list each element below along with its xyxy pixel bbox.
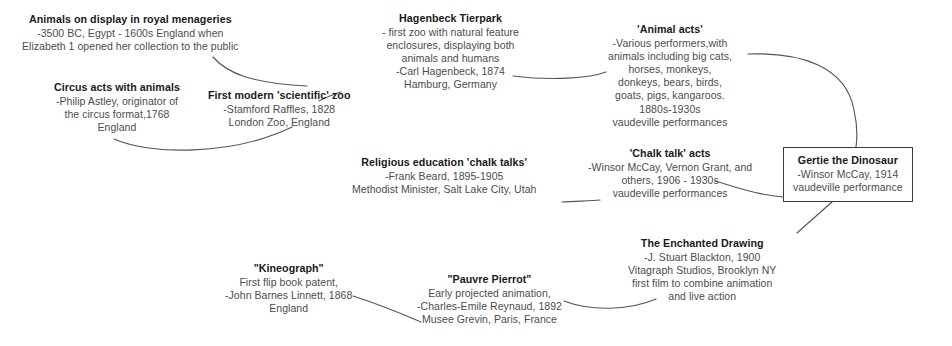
node-line: Methodist Minister, Salt Lake City, Utah [352,183,536,196]
connector-animal-acts-to-gertie [748,54,857,147]
node-line: 1880s-1930s [608,103,732,116]
node-line: -Winsor McCay, 1914 [793,168,903,181]
node-line: goats, pigs, kangaroos. [608,89,732,102]
node-line: donkeys, bears, birds, [608,76,732,89]
node-title: First modern 'scientific' zoo [208,88,351,103]
node-line: vaudeville performances [588,187,752,200]
node-line: vaudeville performance [793,181,903,194]
connector-menageries-to-zoo [213,57,307,86]
node-title: 'Animal acts' [608,22,732,37]
node-enchanted-drawing: The Enchanted Drawing -J. Stuart Blackto… [628,236,776,303]
node-line: enclosures, displaying both [382,39,519,52]
node-gertie-the-dinosaur: Gertie the Dinosaur -Winsor McCay, 1914 … [783,147,913,202]
node-line: and live action [628,290,776,303]
node-title: Hagenbeck Tierpark [382,11,519,26]
node-line: Elizabeth 1 opened her collection to the… [22,40,239,53]
node-line: vaudeville performances [608,116,732,129]
node-line: animals and humans [382,52,519,65]
connector-kineograph-to-pauvre-pierrot [353,296,421,322]
node-line: Vitagraph Studios, Brooklyn NY [628,264,776,277]
node-line: -Philip Astley, originator of [54,95,180,108]
node-religious-education-chalk-talks: Religious education 'chalk talks' -Frank… [352,155,536,196]
node-line: - first zoo with natural feature [382,26,519,39]
node-line: -3500 BC, Egypt - 1600s England when [22,27,239,40]
node-title: Animals on display in royal menageries [22,12,239,27]
node-line: -Frank Beard, 1895-1905 [352,170,536,183]
node-line: first film to combine animation [628,277,776,290]
node-hagenbeck-tierpark: Hagenbeck Tierpark - first zoo with natu… [382,11,519,92]
node-line: animals including big cats, [608,50,732,63]
node-line: -J. Stuart Blackton, 1900 [628,251,776,264]
node-line: England [54,121,180,134]
connector-gertie-to-enchanted-drawing [797,201,833,233]
node-line: England [225,302,352,315]
node-line: horses, monkeys, [608,63,732,76]
node-pauvre-pierrot: "Pauvre Pierrot" Early projected animati… [417,272,562,326]
node-royal-menageries: Animals on display in royal menageries -… [22,12,239,53]
connector-hagenbeck-to-animal-acts [513,72,606,79]
node-title: Religious education 'chalk talks' [352,155,536,170]
node-line: others, 1906 - 1930s [588,174,752,187]
diagram-canvas: Animals on display in royal menageries -… [0,0,952,346]
node-title: "Kineograph" [225,261,352,276]
node-title: 'Chalk talk' acts [588,146,752,161]
node-line: -Carl Hagenbeck, 1874 [382,65,519,78]
node-line: -Various performers,with [608,37,732,50]
node-title: "Pauvre Pierrot" [417,272,562,287]
node-first-modern-scientific-zoo: First modern 'scientific' zoo -Stamford … [208,88,351,129]
node-title: Gertie the Dinosaur [793,153,903,168]
node-chalk-talk-acts: 'Chalk talk' acts -Winsor McCay, Vernon … [588,146,752,200]
node-line: the circus format,1768 [54,108,180,121]
node-animal-acts: 'Animal acts' -Various performers,with a… [608,22,732,129]
node-line: -John Barnes Linnett, 1868 [225,289,352,302]
node-line: Musee Grevin, Paris, France [417,313,562,326]
node-circus-acts: Circus acts with animals -Philip Astley,… [54,80,180,134]
node-line: London Zoo, England [208,116,351,129]
node-line: -Charles-Emile Reynaud, 1892 [417,300,562,313]
node-line: Early projected animation, [417,287,562,300]
node-title: Circus acts with animals [54,80,180,95]
node-kineograph: "Kineograph" First flip book patent, -Jo… [225,261,352,315]
node-line: First flip book patent, [225,276,352,289]
connector-religious-to-chalk-talk [562,200,600,202]
node-line: -Winsor McCay, Vernon Grant, and [588,161,752,174]
node-line: Hamburg, Germany [382,78,519,91]
node-line: -Stamford Raffles, 1828 [208,103,351,116]
node-title: The Enchanted Drawing [628,236,776,251]
